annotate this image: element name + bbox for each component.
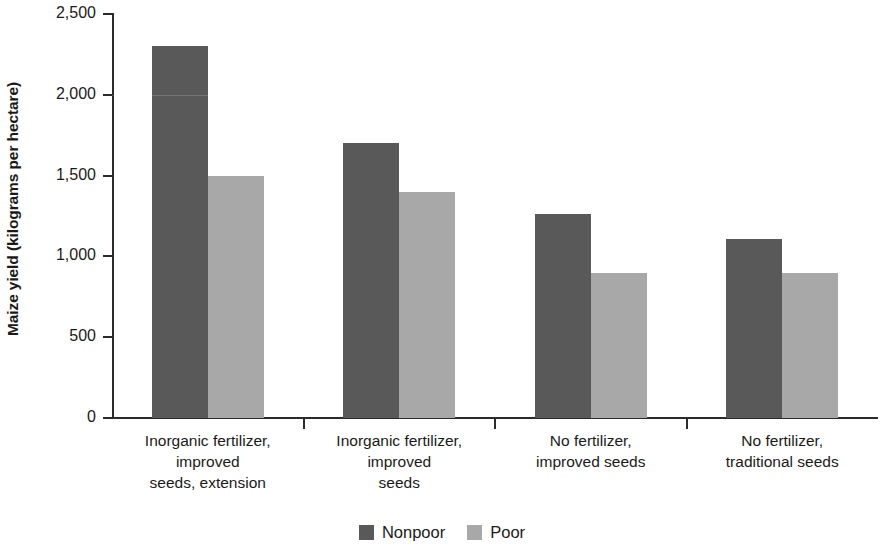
bar-nonpoor bbox=[343, 143, 399, 418]
bar-poor bbox=[208, 176, 264, 418]
bars-layer bbox=[0, 0, 884, 418]
x-axis-category-label-line: Inorganic fertilizer, bbox=[112, 430, 304, 451]
x-axis-category-label-line: traditional seeds bbox=[687, 451, 879, 472]
x-axis-category-label-line: seeds, extension bbox=[112, 472, 304, 493]
x-axis-category-label: Inorganic fertilizer,improvedseeds, exte… bbox=[112, 430, 304, 493]
x-axis-category-label: No fertilizer,traditional seeds bbox=[687, 430, 879, 472]
x-axis-category-label-line: improved bbox=[304, 451, 496, 472]
x-axis-divider-tick bbox=[686, 419, 688, 429]
bar-nonpoor bbox=[152, 46, 208, 418]
x-axis-category-label: Inorganic fertilizer,improvedseeds bbox=[304, 430, 496, 493]
bar-poor bbox=[782, 273, 838, 418]
x-axis-category-label-line: Inorganic fertilizer, bbox=[304, 430, 496, 451]
legend-item-nonpoor[interactable]: Nonpoor bbox=[359, 524, 445, 541]
x-axis-divider-tick bbox=[303, 419, 305, 429]
legend-swatch-icon bbox=[467, 525, 482, 540]
legend-swatch-icon bbox=[359, 525, 374, 540]
x-axis-category-label-line: improved seeds bbox=[495, 451, 687, 472]
bar-poor bbox=[591, 273, 647, 418]
x-axis-divider-tick bbox=[494, 419, 496, 429]
x-axis-category-label-line: No fertilizer, bbox=[687, 430, 879, 451]
bar-nonpoor bbox=[726, 239, 782, 418]
x-axis-category-label-line: No fertilizer, bbox=[495, 430, 687, 451]
x-axis-category-label: No fertilizer,improved seeds bbox=[495, 430, 687, 472]
legend-item-poor[interactable]: Poor bbox=[467, 524, 525, 541]
bar-poor bbox=[399, 192, 455, 418]
x-axis-category-label-line: seeds bbox=[304, 472, 496, 493]
legend-label: Nonpoor bbox=[382, 524, 445, 541]
legend-label: Poor bbox=[490, 524, 525, 541]
x-axis-category-label-line: improved bbox=[112, 451, 304, 472]
bar-nonpoor bbox=[535, 214, 591, 418]
chart-legend: NonpoorPoor bbox=[0, 524, 884, 541]
maize-yield-bar-chart: Maize yield (kilograms per hectare) 0500… bbox=[0, 0, 884, 551]
gridline-artifact bbox=[112, 95, 878, 96]
